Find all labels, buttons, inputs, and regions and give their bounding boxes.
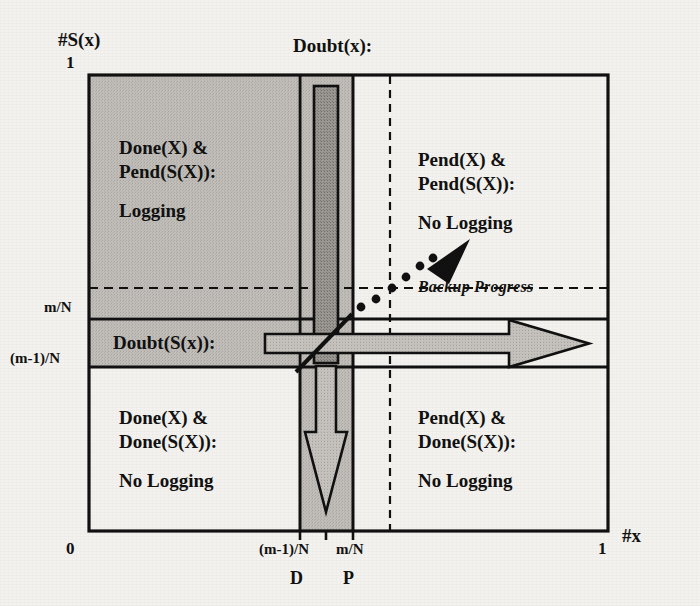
quadrant-top-left: Done(X) & Pend(S(X)): Logging <box>119 136 216 223</box>
x-tick-m-minus-1-over-n: (m-1)/N <box>259 540 309 559</box>
y-tick-m-minus-1-over-n: (m-1)/N <box>10 349 60 368</box>
x-tick-m-over-n: m/N <box>336 540 364 559</box>
quadrant-top-left-line2: Pend(S(X)): <box>119 160 216 184</box>
spacer <box>119 185 216 199</box>
quadrant-top-right-line2: Pend(S(X)): <box>418 172 515 196</box>
spacer <box>119 455 217 469</box>
y-tick-1: 1 <box>66 52 75 74</box>
quadrant-bottom-right-line1: Pend(X) & <box>418 406 516 430</box>
x-tick-0: 0 <box>66 538 75 560</box>
doubt-x-indicator-bar <box>314 86 338 363</box>
figure-canvas: #S(x) #x 1 m/N (m-1)/N 0 (m-1)/N m/N 1 D… <box>0 0 700 606</box>
shaded-region-left-lower <box>90 291 298 317</box>
quadrant-top-right: Pend(X) & Pend(S(X)): No Logging <box>418 148 515 235</box>
spacer <box>418 197 515 211</box>
quadrant-diagram-svg <box>0 0 700 606</box>
quadrant-bottom-left: Done(X) & Done(S(X)): No Logging <box>119 406 217 493</box>
quadrant-top-left-line1: Done(X) & <box>119 136 216 160</box>
doubt-sx-band-label: Doubt(S(x)): <box>113 331 215 355</box>
quadrant-bottom-left-line1: Done(X) & <box>119 406 217 430</box>
spacer <box>418 455 516 469</box>
column-marker-p: P <box>343 567 354 590</box>
doubt-x-column-label: Doubt(x): <box>293 34 372 58</box>
x-axis-title: #x <box>622 524 641 548</box>
y-axis-title: #S(x) <box>58 28 100 52</box>
quadrant-bottom-right: Pend(X) & Done(S(X)): No Logging <box>418 406 516 493</box>
quadrant-bottom-right-line2: Done(S(X)): <box>418 430 516 454</box>
y-tick-m-over-n: m/N <box>44 298 72 317</box>
x-tick-1: 1 <box>598 538 607 560</box>
quadrant-bottom-left-line2: Done(S(X)): <box>119 430 217 454</box>
quadrant-top-left-line3: Logging <box>119 199 216 223</box>
column-marker-d: D <box>290 567 303 590</box>
quadrant-bottom-right-line3: No Logging <box>418 469 516 493</box>
backup-progress-label: Backup Progress <box>418 277 533 297</box>
quadrant-top-right-line3: No Logging <box>418 211 515 235</box>
quadrant-top-right-line1: Pend(X) & <box>418 148 515 172</box>
quadrant-bottom-left-line3: No Logging <box>119 469 217 493</box>
